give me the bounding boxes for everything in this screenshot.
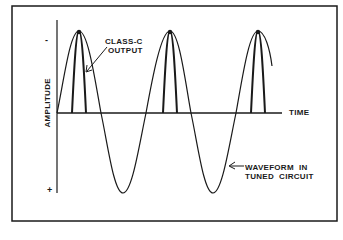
peak-dot-3 <box>256 30 260 34</box>
peak-dot-1 <box>77 30 81 34</box>
tuned-circuit-waveform <box>57 31 272 193</box>
amplitude-label: AMPLITUDE <box>43 88 52 128</box>
class-c-pulse-3 <box>251 31 265 113</box>
waveform-label: WAVEFORM IN TUNED CIRCUIT <box>245 163 314 181</box>
class-c-label-line1: CLASS-C <box>105 37 143 46</box>
positive-marker: + <box>47 186 53 195</box>
time-label: TIME <box>289 108 309 117</box>
waveform-arrow-icon <box>229 162 244 169</box>
waveform-label-line1: WAVEFORM IN <box>245 163 314 172</box>
waveform-label-line2: TUNED CIRCUIT <box>245 172 314 181</box>
class-c-pulse-1 <box>72 31 86 113</box>
peak-dot-2 <box>168 30 172 34</box>
negative-marker: - <box>45 36 48 45</box>
class-c-output-label: CLASS-C OUTPUT <box>105 37 143 55</box>
class-c-pulse-2 <box>163 31 177 113</box>
class-c-label-line2: OUTPUT <box>105 46 143 55</box>
